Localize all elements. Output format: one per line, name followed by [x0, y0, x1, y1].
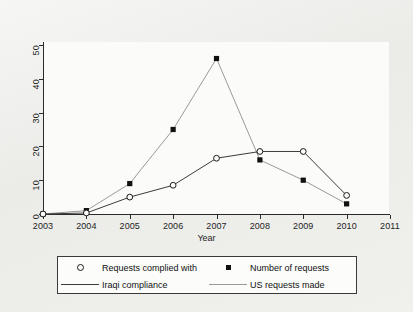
legend-label: Iraqi compliance — [102, 280, 168, 290]
data-point-marker-circle — [83, 210, 89, 216]
data-point-marker-square — [171, 127, 176, 132]
data-point-marker-circle — [214, 155, 220, 161]
legend-entry-requests-complied-with: Requests complied with — [58, 259, 208, 276]
data-point-marker-circle — [257, 149, 263, 155]
data-point-marker-square — [344, 201, 349, 206]
legend-entry-iraqi-compliance: Iraqi compliance — [58, 276, 208, 293]
legend-label: Number of requests — [250, 263, 329, 273]
legend-entry-us-requests-made: US requests made — [206, 276, 356, 293]
dark-line-icon — [58, 284, 102, 285]
legend-label: US requests made — [250, 280, 325, 290]
light-line-icon — [206, 284, 250, 285]
legend-label: Requests complied with — [102, 263, 197, 273]
data-point-marker-circle — [40, 211, 46, 217]
series-line-us-requests-made — [43, 59, 347, 214]
data-point-marker-square — [257, 157, 262, 162]
legend-entry-number-of-requests: Number of requests — [206, 259, 356, 276]
chart-legend: Requests complied with Number of request… — [57, 256, 357, 294]
data-point-marker-circle — [300, 149, 306, 155]
chart-figure: 01020304050 2003200420052006200720082009… — [0, 0, 413, 312]
filled-square-icon — [206, 265, 250, 270]
data-point-marker-circle — [344, 193, 350, 199]
open-circle-icon — [58, 264, 102, 271]
data-point-marker-circle — [127, 194, 133, 200]
data-point-marker-circle — [170, 182, 176, 188]
data-point-marker-square — [127, 181, 132, 186]
data-point-marker-square — [301, 178, 306, 183]
data-point-marker-square — [214, 56, 219, 61]
